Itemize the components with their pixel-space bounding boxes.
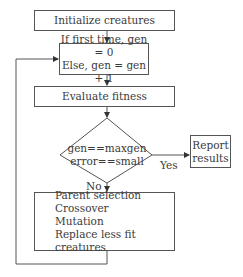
generation-line-1: If first time, gen = 0 xyxy=(60,33,148,59)
evaluate-fitness-label: Evaluate fitness xyxy=(62,90,147,103)
report-line-2: results xyxy=(192,152,228,165)
evolve-step-parent-selection: Parent selection xyxy=(55,189,141,202)
initialize-creatures-box: Initialize creatures xyxy=(34,10,175,31)
report-line-1: Report xyxy=(192,139,228,152)
decision-line-1: gen==maxgen xyxy=(61,142,153,155)
initialize-creatures-label: Initialize creatures xyxy=(54,14,155,27)
generation-line-2: Else, gen = gen + 1 xyxy=(60,59,148,85)
evolve-step-mutation: Mutation xyxy=(55,215,104,228)
yes-label: Yes xyxy=(160,159,178,171)
evaluate-fitness-box: Evaluate fitness xyxy=(34,86,175,107)
evolution-steps-box: Parent selection Crossover Mutation Repl… xyxy=(34,192,175,251)
decision-line-2: error==small xyxy=(61,155,153,168)
evolve-step-replace: Replace less fit creatures xyxy=(55,228,174,254)
decision-text: gen==maxgen error==small xyxy=(61,142,153,168)
evolve-step-crossover: Crossover xyxy=(55,202,109,215)
report-results-box: Report results xyxy=(190,135,231,168)
generation-box: If first time, gen = 0 Else, gen = gen +… xyxy=(59,43,149,75)
